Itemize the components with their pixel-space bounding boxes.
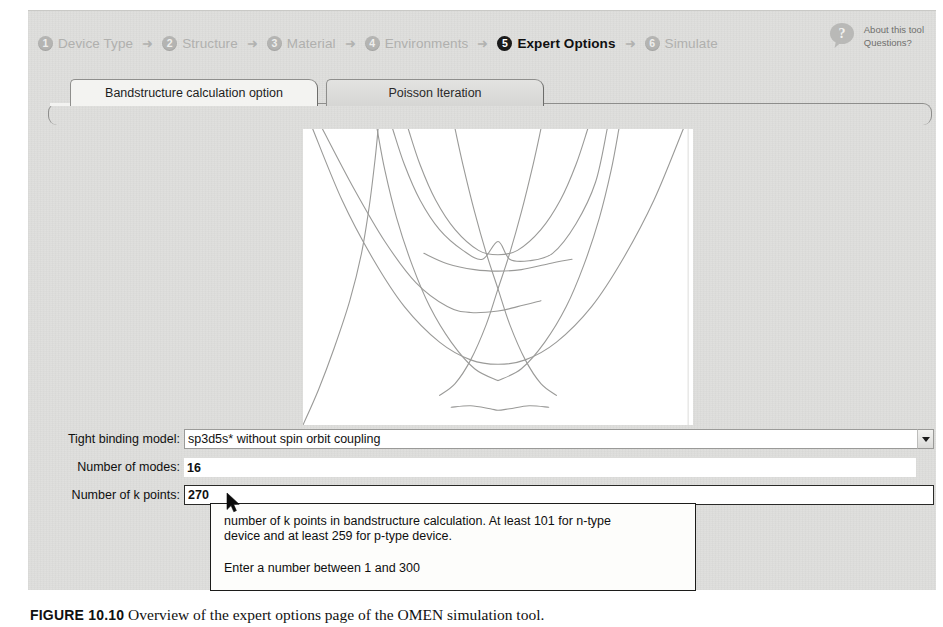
figure-caption-label: FIGURE 10.10: [30, 607, 124, 623]
wizard-arrow-icon: ➜: [625, 37, 636, 50]
wizard-step-label: Material: [287, 36, 336, 51]
tab-bandstructure-calculation-option[interactable]: Bandstructure calculation option: [70, 79, 318, 106]
tight-binding-model-select[interactable]: sp3d5s* without spin orbit coupling: [184, 429, 917, 449]
wizard-step-number: 6: [645, 36, 660, 51]
wizard-arrow-icon: ➜: [247, 37, 258, 50]
about-this-tool-link[interactable]: About this tool: [864, 25, 924, 35]
application-window: 1 Device Type ➜ 2 Structure ➜ 3 Material…: [28, 10, 936, 590]
wizard-step-breadcrumb: 1 Device Type ➜ 2 Structure ➜ 3 Material…: [28, 23, 936, 63]
wizard-step-number: 4: [365, 36, 380, 51]
wizard-step-structure[interactable]: 2 Structure: [162, 36, 238, 51]
wizard-step-number: 1: [38, 36, 53, 51]
wizard-step-simulate[interactable]: 6 Simulate: [645, 36, 718, 51]
wizard-step-label: Expert Options: [517, 36, 615, 51]
tooltip-line-1: number of k points in bandstructure calc…: [224, 514, 682, 529]
chevron-down-icon[interactable]: [917, 429, 934, 449]
field-row-tight-binding-model: Tight binding model: sp3d5s* without spi…: [38, 428, 928, 450]
tab-poisson-iteration[interactable]: Poisson Iteration: [326, 79, 544, 106]
wizard-step-label: Environments: [385, 36, 469, 51]
tooltip-line-2: device and at least 259 for p-type devic…: [224, 529, 682, 544]
wizard-step-device-type[interactable]: 1 Device Type: [38, 36, 133, 51]
field-row-number-of-modes: Number of modes: 16: [38, 456, 928, 478]
number-of-k-points-label: Number of k points:: [38, 488, 184, 502]
questions-link[interactable]: Questions?: [864, 38, 924, 48]
figure-caption-text: Overview of the expert options page of t…: [128, 606, 544, 623]
content-panel-frame: [48, 103, 932, 125]
wizard-step-label: Simulate: [665, 36, 718, 51]
number-of-modes-label: Number of modes:: [38, 460, 184, 474]
wizard-step-environments[interactable]: 4 Environments: [365, 36, 469, 51]
figure-caption: FIGURE 10.10 Overview of the expert opti…: [30, 605, 910, 625]
k-points-tooltip: number of k points in bandstructure calc…: [210, 503, 696, 591]
wizard-arrow-icon: ➜: [477, 37, 488, 50]
tooltip-line-3: Enter a number between 1 and 300: [224, 561, 682, 576]
wizard-step-number: 2: [162, 36, 177, 51]
wizard-arrow-icon: ➜: [345, 37, 356, 50]
tight-binding-model-label: Tight binding model:: [38, 432, 184, 446]
bandstructure-plot-canvas: [303, 129, 693, 425]
help-text-block: About this tool Questions?: [864, 25, 924, 48]
wizard-arrow-icon: ➜: [142, 37, 153, 50]
question-bubble-icon[interactable]: ?: [827, 21, 857, 51]
chevron-down-glyph: [922, 437, 930, 442]
wizard-step-number: 5: [497, 36, 512, 51]
svg-text:?: ?: [838, 26, 845, 41]
wizard-step-number: 3: [267, 36, 282, 51]
wizard-step-expert-options[interactable]: 5 Expert Options: [497, 36, 615, 51]
number-of-modes-input[interactable]: 16: [184, 457, 916, 477]
number-of-k-points-input[interactable]: 270: [184, 485, 934, 505]
bandstructure-plot: [303, 129, 693, 425]
wizard-step-label: Structure: [182, 36, 238, 51]
help-cluster[interactable]: ? About this tool Questions?: [827, 21, 924, 51]
wizard-step-label: Device Type: [58, 36, 133, 51]
wizard-step-material[interactable]: 3 Material: [267, 36, 336, 51]
